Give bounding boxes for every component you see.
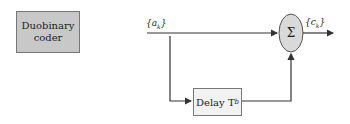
input-label: {ak} — [146, 18, 166, 30]
delay-label: Delay T — [196, 97, 235, 108]
delay-block: Delay Tb — [193, 88, 242, 116]
delay-subscript: b — [235, 98, 239, 106]
delay-to-sum-arrow — [242, 54, 291, 101]
branch-to-delay-arrow — [170, 36, 191, 101]
output-label: {ck} — [305, 17, 325, 29]
sigma-symbol: Σ — [279, 14, 303, 52]
